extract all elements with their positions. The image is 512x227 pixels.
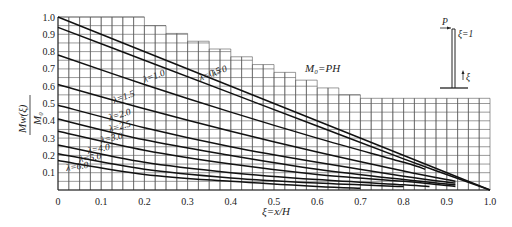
y-tick: 0.5 <box>43 98 56 109</box>
svg-text:M₀: M₀ <box>31 112 43 126</box>
y-tick: 0.2 <box>43 150 56 161</box>
x-axis-label: ξ=x/H <box>262 205 291 218</box>
x-tick: 0.9 <box>441 196 454 207</box>
x-tick: 0 <box>56 196 61 207</box>
y-tick: 0.4 <box>43 115 56 126</box>
y-tick: 0.1 <box>43 167 56 178</box>
top-label: ξ=1 <box>458 29 473 40</box>
y-axis-label: Mw(ξ) M₀ <box>16 95 43 135</box>
x-tick: 0.1 <box>95 196 108 207</box>
y-tick: 1.0 <box>43 12 56 23</box>
curve-labels: λ=0λ=0.5λ=1.0λ=1.5λ=2.0λ=2.5λ=3.0λ=4.0λ=… <box>65 63 229 173</box>
chart: 00.10.20.30.40.50.60.70.80.91.00.10.20.3… <box>0 0 512 227</box>
y-tick: 0.6 <box>43 81 56 92</box>
curve-label: λ=6.0 <box>65 160 90 173</box>
y-tick: 0.3 <box>43 133 56 144</box>
x-tick: 0.4 <box>225 196 238 207</box>
svg-text:Mw(ξ): Mw(ξ) <box>16 104 29 134</box>
x-tick: 0.2 <box>138 196 151 207</box>
x-tick: 0.6 <box>311 196 324 207</box>
x-tick: 1.0 <box>484 196 497 207</box>
xi-axis-label: ξ <box>466 72 471 83</box>
x-tick: 0.3 <box>181 196 194 207</box>
x-tick: 0.7 <box>354 196 367 207</box>
x-tick: 0.8 <box>397 196 410 207</box>
y-tick: 0.7 <box>43 63 56 74</box>
axis-ticks: 00.10.20.30.40.50.60.70.80.91.00.10.20.3… <box>43 12 497 208</box>
inset-diagram: P ξ=1 ξ <box>440 17 473 88</box>
annotation-m0: M₀=PH <box>304 62 341 74</box>
y-tick: 0.9 <box>43 29 56 40</box>
load-label: P <box>441 17 448 27</box>
y-tick: 0.8 <box>43 46 56 57</box>
